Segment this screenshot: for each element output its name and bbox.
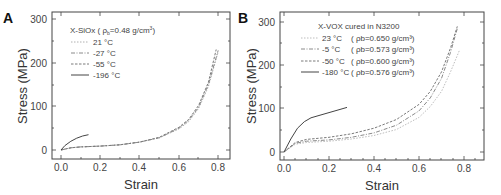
panel-b-xtick-0.6: 0.6 xyxy=(412,163,426,174)
panel-b-label: B xyxy=(238,10,248,26)
figure: A 0 100 200 300 0.0 0.2 0.4 0.6 xyxy=(0,0,501,195)
panel-a-xtick-0.2: 0.2 xyxy=(93,162,107,173)
panel-a-legend: X-SiOx ( ρb=0.48 g/cm3) 21 °C -27 °C -55… xyxy=(70,25,155,80)
panel-a-y-ticks xyxy=(52,19,230,150)
panel-a-x-axis-label: Strain xyxy=(124,177,158,192)
panel-a-xtick-0.4: 0.4 xyxy=(132,162,146,173)
panel-b-xtick-0.8: 0.8 xyxy=(457,163,471,174)
panel-a-xtick-0.0: 0.0 xyxy=(54,162,68,173)
panel-a-ytick-200: 200 xyxy=(30,58,47,69)
panel-a-ytick-0: 0 xyxy=(41,145,47,156)
panel-b-legend: X-VOX cured in N3200 23 °C ( ρb=0.650 g/… xyxy=(301,22,415,77)
panel-b-legend-density-23C: ( ρb=0.650 g/cm³) xyxy=(351,34,415,43)
panel-b-y-axis-label: Stress (MPa) xyxy=(244,48,259,124)
panel-b-legend-title: X-VOX cured in N3200 xyxy=(318,22,400,31)
panel-a-legend-label-minus27C: -27 °C xyxy=(93,49,116,58)
panel-a-xtick-0.6: 0.6 xyxy=(172,162,186,173)
panel-b-legend-density-minus180C: ( ρb=0.576 g/cm³) xyxy=(351,68,415,77)
panel-b-x-axis-label: Strain xyxy=(365,178,399,193)
panel-a-curves xyxy=(61,50,218,151)
panel-b-ytick-100: 100 xyxy=(258,103,275,114)
panel-a-legend-label-minus196C: -196 °C xyxy=(93,71,120,80)
panel-b-xtick-0.2: 0.2 xyxy=(322,163,336,174)
panel-a-legend-label-21C: 21 °C xyxy=(93,38,113,47)
panel-b-legend-temp-minus5C: -5 °C xyxy=(322,45,341,54)
panel-b-legend-density-minus5C: ( ρb=0.573 g/cm³) xyxy=(351,45,415,54)
panel-b-ytick-300: 300 xyxy=(258,17,275,28)
panel-a-ytick-300: 300 xyxy=(30,14,47,25)
panel-a-legend-label-minus55C: -55 °C xyxy=(93,60,116,69)
panel-b-legend-density-minus50C: ( ρb=0.600 g/cm³) xyxy=(351,57,415,66)
panel-b-legend-temp-minus50C: -50 °C xyxy=(322,57,345,66)
panel-a-curve-minus55C xyxy=(61,50,216,151)
panel-b-ytick-200: 200 xyxy=(258,60,275,71)
panel-b-ytick-0: 0 xyxy=(269,147,275,158)
panel-a-label: A xyxy=(3,10,13,26)
panel-a: A 0 100 200 300 0.0 0.2 0.4 0.6 xyxy=(3,10,230,192)
panel-b-xtick-0.4: 0.4 xyxy=(367,163,381,174)
panel-a-legend-title: X-SiOx ( ρb=0.48 g/cm3) xyxy=(70,25,155,36)
panel-b-legend-temp-23C: 23 °C xyxy=(322,34,342,43)
panel-b-legend-temp-minus180C: -180 °C xyxy=(322,68,349,77)
panel-a-y-axis-label: Stress (MPa) xyxy=(15,48,30,124)
panel-b-xtick-0.0: 0.0 xyxy=(277,163,291,174)
panel-a-xtick-0.8: 0.8 xyxy=(211,162,225,173)
panel-a-ytick-100: 100 xyxy=(30,101,47,112)
panel-b: B 0 100 200 300 0.0 xyxy=(238,10,484,193)
